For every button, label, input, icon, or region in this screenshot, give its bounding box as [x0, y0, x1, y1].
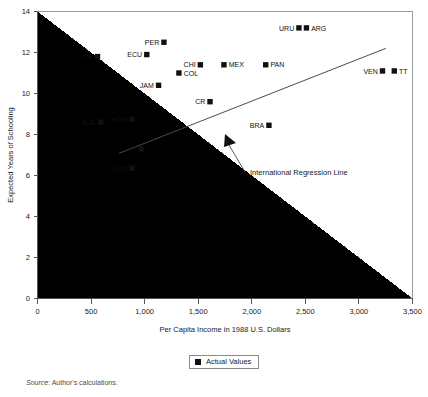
x-axis-title: Per Capita Income in 1988 U.S. Dollars [160, 325, 291, 334]
chart-legend: Actual Values [189, 355, 259, 369]
data-point-marker [304, 25, 309, 30]
legend-label-actual-values: Actual Values [206, 358, 251, 366]
data-point-marker [198, 62, 203, 67]
x-tick-label: 2,500 [296, 307, 315, 316]
data-point-marker [139, 146, 144, 151]
data-point-marker [156, 83, 161, 88]
y-tick-label: 0 [26, 294, 30, 303]
plot-axes [38, 12, 413, 299]
x-tick-label: 0 [35, 307, 39, 316]
source-text: Author's calculations. [52, 379, 118, 386]
y-tick-label: 14 [22, 7, 30, 16]
data-point-label: HON [112, 116, 128, 123]
x-tick-label: 1,500 [189, 307, 208, 316]
x-tick-label: 3,000 [350, 307, 369, 316]
data-point-label: MEX [229, 61, 245, 68]
x-tick-label: 2,000 [242, 307, 261, 316]
data-point-marker [176, 70, 181, 75]
y-tick-label: 12 [22, 48, 30, 57]
data-point-marker [161, 40, 166, 45]
x-axis-ticks [38, 299, 413, 304]
y-axis-title: Expected Years of Schooling [6, 107, 15, 203]
data-point-label: CHI [184, 61, 196, 68]
data-point-label: ECU [127, 51, 142, 58]
y-tick-label: 10 [22, 89, 30, 98]
y-tick-label: 8 [26, 130, 30, 139]
regression-line-annotation-label: International Regression Line [250, 168, 348, 177]
data-point-marker [129, 116, 134, 121]
y-axis-ticks [34, 12, 38, 299]
y-axis-tick-labels: 0 2 4 6 8 10 12 14 [22, 7, 30, 303]
y-tick-label: 2 [26, 253, 30, 262]
data-point-label: PAN [270, 61, 284, 68]
data-point-marker [380, 68, 385, 73]
data-point-marker [144, 52, 149, 57]
data-point-label: BRA [250, 122, 265, 129]
source-note: Source: Author's calculations. [26, 379, 118, 386]
data-point-label: VEN [363, 68, 377, 75]
x-tick-label: 3,500 [403, 307, 422, 316]
x-axis-tick-labels: 0 500 1,000 1,500 2,000 2,500 3,000 3,50… [35, 307, 421, 316]
data-point-label: GUA [112, 165, 128, 172]
data-point-label: CR [195, 98, 205, 105]
data-point-marker [207, 99, 212, 104]
data-point-marker [129, 166, 134, 171]
data-point-marker [266, 123, 271, 128]
source-prefix: Source: [26, 379, 50, 386]
data-point-marker [263, 62, 268, 67]
data-point-label: DR [83, 53, 93, 60]
scatter-plot-svg: 0 2 4 6 8 10 12 14 0 500 1,000 1,500 2,0 [0, 0, 428, 397]
legend-swatch-actual-values [195, 359, 201, 365]
chart-container: 0 2 4 6 8 10 12 14 0 500 1,000 1,500 2,0 [0, 0, 428, 397]
data-point-label: COL [184, 70, 199, 77]
data-point-marker [221, 62, 226, 67]
data-point-label: TT [399, 68, 408, 75]
x-tick-label: 500 [85, 307, 98, 316]
data-point-label: JAM [140, 82, 154, 89]
data-point-marker [98, 120, 103, 125]
data-point-label: PER [145, 39, 159, 46]
x-tick-label: 1,000 [135, 307, 154, 316]
data-point-label: BOL [82, 119, 96, 126]
data-point-label: URU [279, 25, 294, 32]
y-tick-label: 6 [26, 171, 30, 180]
data-point-marker [95, 54, 100, 59]
data-point-marker [392, 68, 397, 73]
y-tick-label: 4 [26, 212, 30, 221]
data-point-label: ARG [311, 25, 326, 32]
data-point-label: ES [127, 145, 137, 152]
data-point-marker [296, 25, 301, 30]
international-regression-line [119, 48, 386, 153]
